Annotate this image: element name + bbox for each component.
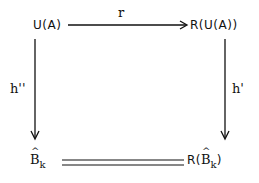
- arrow-h-double-prime: [31, 39, 39, 139]
- node-top-right: R(U(A)): [190, 19, 238, 32]
- prefix-r: R(: [187, 153, 201, 167]
- subscript-k: k: [40, 159, 46, 170]
- hat-b: B: [201, 153, 211, 166]
- hat-b: B: [30, 153, 40, 166]
- edge-label-h-double-prime: h'': [10, 82, 26, 95]
- suffix-paren: ): [217, 153, 222, 167]
- node-top-left: U(A): [33, 19, 61, 32]
- node-bottom-left: Bk: [30, 153, 46, 171]
- edge-label-r: r: [118, 6, 124, 19]
- arrow-r: [68, 21, 187, 29]
- equality-double-line: [62, 160, 184, 165]
- node-bottom-right: R(Bk): [187, 153, 222, 171]
- edge-label-h-prime: h': [232, 82, 244, 95]
- arrow-h-prime: [221, 39, 229, 139]
